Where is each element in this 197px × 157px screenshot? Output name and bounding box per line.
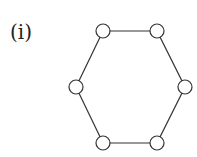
- graph-edge: [157, 87, 185, 143]
- graph-edge: [76, 31, 103, 87]
- graph-node: [96, 24, 110, 38]
- graph-node: [150, 136, 164, 150]
- graph-node: [96, 136, 110, 150]
- graph-edge: [157, 31, 185, 87]
- graph-edge: [76, 87, 103, 143]
- hexagon-cycle-graph: [0, 0, 197, 157]
- graph-node: [150, 24, 164, 38]
- graph-node: [69, 80, 83, 94]
- graph-node: [178, 80, 192, 94]
